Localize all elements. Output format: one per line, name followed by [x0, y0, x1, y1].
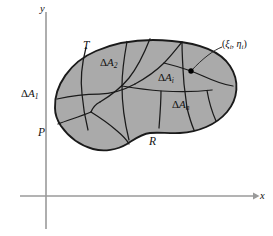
subregion-label-a1: ΔA1 [21, 88, 39, 99]
figure-container: y x T P R ΔA1 ΔA2 ΔAi ΔAn (ξi, ηi) [0, 0, 273, 236]
eta-subscript: i [242, 43, 244, 51]
sample-point-label: (ξi, ηi) [222, 39, 247, 49]
area-letter-a1: A [28, 87, 35, 99]
x-axis-label: x [260, 191, 265, 202]
subregion-label-ai: ΔAi [158, 72, 174, 83]
vertex-label-p: P [38, 127, 45, 139]
sample-point-dot [188, 68, 193, 73]
area-letter-ai: A [165, 71, 172, 83]
paren-close: ) [244, 38, 247, 49]
xi-symbol: ξ [225, 38, 229, 49]
subregion-label-an: ΔAn [172, 99, 190, 110]
x-axis-arrowhead [253, 193, 260, 200]
area-subscript-a1: 1 [35, 92, 39, 101]
vertex-label-r: R [149, 136, 156, 148]
area-subscript-ai: i [172, 76, 174, 85]
figure-canvas [0, 0, 273, 236]
area-subscript-an: n [186, 103, 190, 112]
subregion-label-a2: ΔA2 [100, 57, 118, 68]
eta-symbol: η [237, 38, 242, 49]
area-letter-a2: A [107, 56, 114, 68]
xi-subscript: i [230, 43, 232, 51]
area-letter-an: A [179, 98, 186, 110]
vertex-label-t: T [83, 40, 89, 52]
y-axis-label: y [40, 4, 45, 15]
area-subscript-a2: 2 [114, 61, 118, 70]
